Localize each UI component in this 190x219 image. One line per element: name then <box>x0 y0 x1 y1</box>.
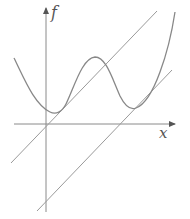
x-axis-label: x <box>159 126 167 141</box>
y-axis-label: f <box>51 5 57 21</box>
upper-tangent-line <box>11 11 157 163</box>
diagram-canvas <box>0 0 190 219</box>
function-diagram: f x <box>0 0 190 219</box>
function-curve <box>14 12 175 113</box>
